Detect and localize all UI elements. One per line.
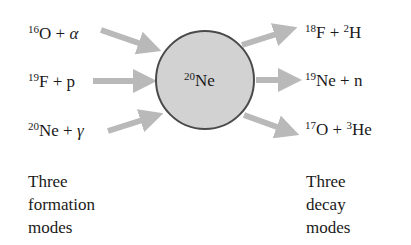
element-symbol: Ne [316,71,336,90]
plus-sign: + [325,23,343,42]
formation-label-3: 20Ne + γ [28,122,84,139]
caption-decay: Three decay modes [306,170,350,239]
arrow-decay-3 [244,115,288,131]
partner-particle: n [354,71,363,90]
arrow-formation-1 [101,30,150,47]
partner-particle: He [352,120,372,139]
arrow-decay-1 [242,31,286,45]
formation-label-2: 19F + p [28,73,75,90]
mass-number: 19 [28,71,39,83]
caption-line: decay [306,193,350,216]
caption-formation: Three formation modes [28,170,95,239]
mass-number: 17 [305,119,316,131]
mass-number: 20 [28,120,39,132]
caption-line: modes [306,216,350,239]
mass-number: 16 [28,23,39,35]
nucleus-mass: 20 [184,70,195,82]
partner-particle: γ [77,121,84,140]
plus-sign: + [48,72,66,91]
partner-particle: α [69,24,78,43]
arrow-formation-3 [108,117,152,131]
decay-label-2: 19Ne + n [305,72,362,89]
mass-number: 19 [305,70,316,82]
decay-label-1: 18F + 2H [305,24,361,41]
mass-number: 18 [305,22,316,34]
plus-sign: + [336,71,354,90]
plus-sign: + [51,24,69,43]
nucleus-label: 20Ne [184,72,215,89]
partner-particle: p [67,72,76,91]
partner-particle: H [349,23,361,42]
caption-line: Three [28,170,95,193]
caption-line: Three [306,170,350,193]
element-symbol: O [39,24,51,43]
decay-label-3: 17O + 3He [305,121,372,138]
caption-line: modes [28,216,95,239]
plus-sign: + [59,121,77,140]
caption-line: formation [28,193,95,216]
formation-label-1: 16O + α [28,25,78,42]
element-symbol: Ne [39,121,59,140]
nucleus-symbol: Ne [195,71,215,90]
plus-sign: + [328,120,346,139]
element-symbol: O [316,120,328,139]
